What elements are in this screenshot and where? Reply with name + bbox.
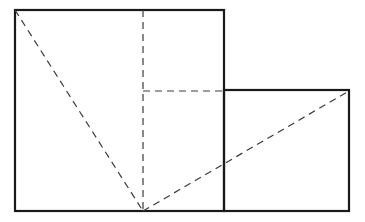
large-square (15, 10, 224, 211)
geometry-diagram (0, 0, 365, 222)
small-rectangle (224, 90, 349, 211)
dashed-line-diagonal-left (15, 10, 143, 211)
dashed-construction-lines (15, 10, 349, 211)
dashed-line-diagonal-right (143, 91, 349, 211)
